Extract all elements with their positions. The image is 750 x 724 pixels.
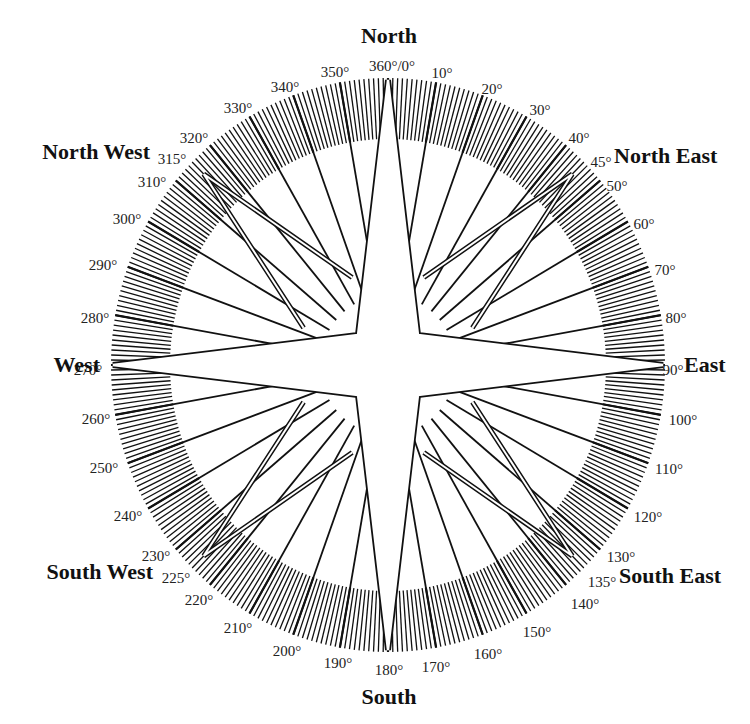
degree-label: 10° — [432, 65, 453, 81]
degree-tick — [203, 152, 242, 197]
degree-tick — [112, 345, 171, 349]
degree-tick — [522, 139, 558, 187]
degree-tick — [604, 325, 662, 333]
degree-tick — [114, 325, 172, 333]
spoke-20 — [411, 95, 483, 299]
degree-tick — [170, 188, 216, 226]
degree-tick — [560, 188, 606, 226]
degree-tick — [221, 545, 257, 594]
degree-tick — [448, 89, 464, 148]
spoke-110 — [451, 389, 648, 463]
degree-tick — [122, 286, 179, 303]
degree-tick — [217, 139, 253, 187]
degree-label: 220° — [185, 592, 214, 608]
degree-label: 140° — [571, 596, 600, 612]
spoke-160 — [411, 431, 483, 635]
degree-label: 120° — [634, 509, 663, 525]
spoke-290 — [128, 267, 325, 341]
degree-tick — [349, 81, 357, 141]
cardinal-label-south: South — [361, 684, 416, 709]
compass-svg: 360°/0°10°20°30°40°45°50°60°70°80°90°100… — [0, 0, 750, 724]
degree-tick — [604, 396, 662, 404]
degree-label: 20° — [482, 81, 503, 97]
degree-label: 170° — [422, 659, 451, 675]
degree-label: 70° — [655, 262, 676, 278]
degree-tick — [534, 152, 573, 197]
degree-tick — [399, 591, 402, 652]
degree-tick — [164, 196, 212, 232]
degree-tick — [403, 590, 407, 651]
degree-tick — [418, 589, 426, 649]
degree-tick — [519, 136, 555, 185]
degree-tick — [564, 196, 612, 232]
intercardinal-label-north-west: North West — [42, 139, 150, 164]
cardinal-label-east: East — [684, 352, 726, 377]
degree-tick — [164, 498, 212, 534]
degree-label: 280° — [81, 310, 110, 326]
degree-label: 160° — [474, 646, 503, 662]
degree-label: 300° — [113, 211, 142, 227]
degree-label: 200° — [273, 643, 302, 659]
degree-tick — [312, 89, 328, 148]
degree-label: 330° — [224, 100, 253, 116]
degree-label: 225° — [162, 570, 191, 586]
compass-rose-diagram: 360°/0°10°20°30°40°45°50°60°70°80°90°100… — [0, 0, 750, 724]
degree-label: 45° — [591, 154, 612, 170]
degree-label: 50° — [607, 178, 628, 194]
degree-tick — [111, 350, 170, 353]
degree-tick — [516, 548, 551, 597]
degree-tick — [522, 543, 558, 591]
degree-label: 110° — [655, 461, 683, 477]
degree-tick — [349, 589, 357, 649]
degree-tick — [605, 345, 664, 349]
spoke-340 — [293, 95, 365, 299]
degree-tick — [374, 591, 377, 652]
degree-tick — [167, 192, 214, 229]
degree-label: 340° — [271, 79, 300, 95]
spoke-250 — [128, 389, 325, 463]
degree-label: 260° — [82, 411, 111, 427]
cardinal-label-north: North — [361, 23, 417, 48]
degree-tick — [448, 582, 464, 641]
degree-tick — [606, 350, 665, 353]
degree-tick — [111, 377, 170, 380]
degree-tick — [203, 533, 242, 578]
cardinal-label-west: West — [54, 352, 101, 377]
degree-label: 180° — [375, 662, 404, 678]
degree-tick — [418, 81, 426, 141]
degree-tick — [312, 582, 328, 641]
degree-label: 210° — [224, 620, 253, 636]
degree-tick — [598, 286, 655, 303]
degree-tick — [605, 381, 664, 385]
degree-tick — [564, 498, 612, 534]
degree-tick — [598, 427, 655, 444]
degree-tick — [369, 79, 373, 140]
degree-tick — [114, 396, 172, 404]
degree-label: 190° — [324, 655, 353, 671]
degree-label: 80° — [666, 310, 687, 326]
degree-tick — [534, 533, 573, 578]
degree-label: 310° — [138, 174, 167, 190]
degree-tick — [170, 504, 216, 542]
degree-tick — [519, 545, 555, 594]
degree-label: 320° — [180, 130, 209, 146]
intercardinal-label-north-east: North East — [614, 143, 718, 168]
degree-tick — [122, 427, 179, 444]
degree-tick — [560, 504, 606, 542]
degree-tick — [225, 133, 260, 182]
degree-tick — [562, 501, 609, 538]
degree-tick — [221, 136, 257, 185]
degree-tick — [225, 548, 260, 597]
degree-tick — [217, 543, 253, 591]
degree-tick — [112, 381, 171, 385]
degree-label: 100° — [669, 412, 698, 428]
degree-label: 240° — [114, 508, 143, 524]
degree-label: 90° — [663, 362, 684, 378]
degree-label: 135° — [588, 574, 617, 590]
degree-label: 250° — [90, 460, 119, 476]
degree-tick — [606, 377, 665, 380]
intercardinal-label-south-east: South East — [619, 563, 722, 588]
degree-tick — [562, 192, 609, 229]
degree-label: 315° — [158, 151, 187, 167]
degree-tick — [374, 78, 377, 139]
